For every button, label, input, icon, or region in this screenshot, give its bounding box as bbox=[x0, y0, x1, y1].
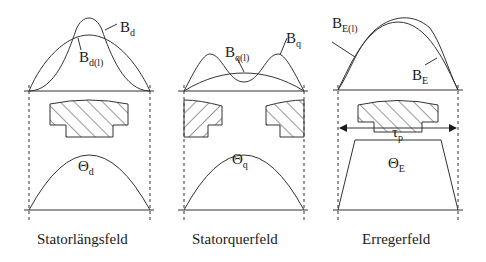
label-theta-q: Θ bbox=[232, 151, 243, 167]
label-theta-q-sub: q bbox=[243, 159, 248, 170]
label-bd1: B bbox=[79, 49, 89, 65]
label-be-sub: E bbox=[422, 75, 428, 86]
svg-text:BE: BE bbox=[412, 67, 428, 86]
label-be1: B bbox=[332, 15, 342, 31]
leader-bd bbox=[105, 24, 117, 30]
svg-text:Bq: Bq bbox=[286, 30, 301, 49]
svg-text:Bd(l): Bd(l) bbox=[79, 49, 103, 69]
label-bd1-sub: d(l) bbox=[89, 57, 103, 69]
label-bq1-sub: q(l) bbox=[235, 52, 249, 64]
label-be: B bbox=[412, 67, 422, 83]
field-diagram: Bd Bd(l) Θd Bq(l) Bq Θq bbox=[0, 0, 486, 262]
label-bq1: B bbox=[225, 44, 235, 60]
svg-text:Θd: Θd bbox=[78, 158, 94, 177]
leader-be1 bbox=[332, 42, 355, 57]
label-bq: B bbox=[286, 30, 296, 46]
panel-excitation bbox=[332, 18, 463, 222]
svg-text:Bd: Bd bbox=[120, 19, 135, 38]
label-bd: B bbox=[120, 19, 130, 35]
panel-q-axis bbox=[178, 38, 308, 222]
label-theta-d: Θ bbox=[78, 158, 89, 174]
svg-text:Θq: Θq bbox=[232, 151, 248, 170]
caption-d-axis: Statorlängsfeld bbox=[37, 231, 128, 248]
caption-excitation: Erregerfeld bbox=[362, 231, 430, 248]
mmf-curve-d bbox=[29, 155, 150, 210]
leader-be bbox=[425, 58, 437, 65]
svg-text:BE(l): BE(l) bbox=[332, 15, 358, 35]
label-bq-sub: q bbox=[296, 38, 301, 49]
mmf-curve-e bbox=[338, 140, 458, 210]
svg-text:Bq(l): Bq(l) bbox=[225, 44, 249, 64]
svg-text:ΘE: ΘE bbox=[388, 155, 405, 174]
label-theta-d-sub: d bbox=[89, 166, 94, 177]
rotor-pole-q-right bbox=[266, 100, 304, 137]
label-be1-sub: E(l) bbox=[342, 23, 358, 35]
label-theta-e-sub: E bbox=[399, 163, 405, 174]
label-tau-p-sub: p bbox=[398, 132, 403, 143]
rotor-pole-d bbox=[50, 100, 128, 137]
rotor-pole-q-left bbox=[184, 100, 222, 137]
label-bd-sub: d bbox=[130, 27, 135, 38]
caption-q-axis: Statorquerfeld bbox=[192, 231, 278, 248]
label-theta-e: Θ bbox=[388, 155, 399, 171]
